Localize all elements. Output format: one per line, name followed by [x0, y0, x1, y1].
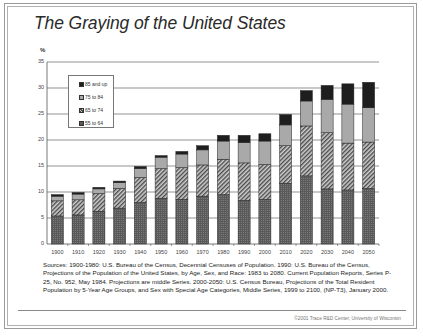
bar-segment-85-up — [259, 134, 271, 141]
legend-item-85-up: 85 and up — [79, 81, 107, 87]
bar-segment-55-64 — [280, 183, 292, 244]
legend-label: 65 to 74 — [85, 107, 103, 113]
bar-segment-85-up — [342, 84, 354, 104]
bar-2010 — [280, 115, 292, 244]
bar-2030 — [321, 85, 333, 244]
legend-swatch-85-up — [79, 82, 84, 87]
x-tick-label: 2030 — [317, 249, 337, 255]
bar-segment-75-84 — [93, 189, 105, 194]
x-tick-label: 1950 — [151, 249, 171, 255]
x-tick-label: 1990 — [234, 249, 254, 255]
bar-segment-65-74 — [238, 163, 250, 200]
bar-2050 — [363, 82, 375, 244]
bar-segment-75-84 — [363, 108, 375, 142]
legend-item-65-74: 65 to 74 — [79, 107, 103, 113]
bar-segment-65-74 — [300, 126, 312, 176]
x-tick-label: 2020 — [296, 249, 316, 255]
bar-segment-55-64 — [134, 202, 146, 244]
bar-segment-55-64 — [93, 211, 105, 244]
bar-segment-55-64 — [342, 190, 354, 244]
bar-segment-55-64 — [155, 198, 167, 244]
bar-segment-65-74 — [342, 143, 354, 190]
bar-segment-65-74 — [363, 142, 375, 188]
bar-1940 — [134, 167, 146, 244]
x-tick-label: 1940 — [130, 249, 150, 255]
legend-swatch-65-74 — [79, 108, 84, 113]
x-tick-label: 1920 — [89, 249, 109, 255]
x-tick-label: 1910 — [68, 249, 88, 255]
legend-label: 55 to 64 — [85, 120, 103, 126]
bar-segment-75-84 — [280, 125, 292, 146]
bar-segment-55-64 — [72, 215, 84, 244]
bar-segment-65-74 — [176, 168, 188, 200]
y-tick-label: 35 — [30, 58, 44, 64]
chart-title: The Graying of the United States — [34, 13, 286, 34]
legend-swatch-55-64 — [79, 121, 84, 126]
bar-segment-65-74 — [197, 165, 209, 196]
y-tick-label: 15 — [30, 162, 44, 168]
bar-1920 — [93, 187, 105, 244]
x-tick-label: 1980 — [213, 249, 233, 255]
legend-label: 75 to 84 — [85, 94, 103, 100]
bar-2000 — [259, 134, 271, 244]
footer-divider — [18, 310, 406, 311]
bar-segment-75-84 — [217, 141, 229, 159]
x-tick-label: 1960 — [172, 249, 192, 255]
y-axis-label: % — [40, 47, 45, 53]
bar-segment-75-84 — [197, 150, 209, 165]
y-tick-label: 0 — [30, 240, 44, 246]
bar-segment-85-up — [134, 167, 146, 169]
bar-segment-65-74 — [134, 177, 146, 202]
bar-segment-85-up — [51, 195, 63, 197]
x-tick-label: 2010 — [276, 249, 296, 255]
bar-segment-85-up — [93, 187, 105, 189]
bar-segment-85-up — [155, 156, 167, 158]
bar-1900 — [51, 195, 63, 244]
bar-segment-65-74 — [72, 200, 84, 215]
y-tick-label: 20 — [30, 136, 44, 142]
bar-segment-85-up — [321, 85, 333, 99]
x-tick-label: 1970 — [193, 249, 213, 255]
x-tick-label: 1930 — [110, 249, 130, 255]
bar-segment-75-84 — [238, 143, 250, 163]
bar-1910 — [72, 193, 84, 244]
bar-segment-65-74 — [217, 159, 229, 194]
bar-1930 — [114, 181, 126, 244]
sources-note: Sources: 1900-1980: U.S. Bureau of the C… — [43, 261, 395, 294]
chart-legend: 85 and up 75 to 84 65 to 74 55 to 64 — [68, 75, 114, 128]
bar-segment-65-74 — [114, 188, 126, 208]
bar-segment-85-up — [197, 146, 209, 150]
bar-segment-75-84 — [155, 157, 167, 168]
x-tick-label: 2050 — [359, 249, 379, 255]
bar-segment-55-64 — [197, 196, 209, 244]
bar-segment-75-84 — [342, 104, 354, 143]
bar-segment-55-64 — [176, 199, 188, 244]
legend-swatch-75-84 — [79, 95, 84, 100]
bar-segment-85-up — [217, 135, 229, 141]
bar-segment-65-74 — [51, 201, 63, 216]
bar-segment-85-up — [176, 151, 188, 154]
bar-segment-55-64 — [51, 216, 63, 244]
bar-segment-75-84 — [114, 183, 126, 189]
x-tick-label: 1900 — [47, 249, 67, 255]
legend-item-75-84: 75 to 84 — [79, 94, 103, 100]
bar-segment-85-up — [238, 135, 250, 142]
y-tick-label: 25 — [30, 110, 44, 116]
bar-segment-55-64 — [363, 188, 375, 244]
bar-segment-55-64 — [238, 200, 250, 244]
x-tick-label: 2000 — [255, 249, 275, 255]
bar-segment-85-up — [114, 181, 126, 183]
bar-segment-75-84 — [300, 101, 312, 126]
y-tick-label: 5 — [30, 214, 44, 220]
bar-segment-55-64 — [114, 208, 126, 244]
bar-1980 — [217, 135, 229, 244]
bar-1960 — [176, 151, 188, 244]
bar-segment-75-84 — [134, 169, 146, 178]
bar-1970 — [197, 146, 209, 244]
bar-2020 — [300, 91, 312, 244]
bar-segment-55-64 — [259, 199, 271, 244]
y-tick-label: 10 — [30, 188, 44, 194]
bar-segment-65-74 — [321, 133, 333, 189]
bar-segment-65-74 — [259, 164, 271, 199]
x-tick-label: 2040 — [338, 249, 358, 255]
